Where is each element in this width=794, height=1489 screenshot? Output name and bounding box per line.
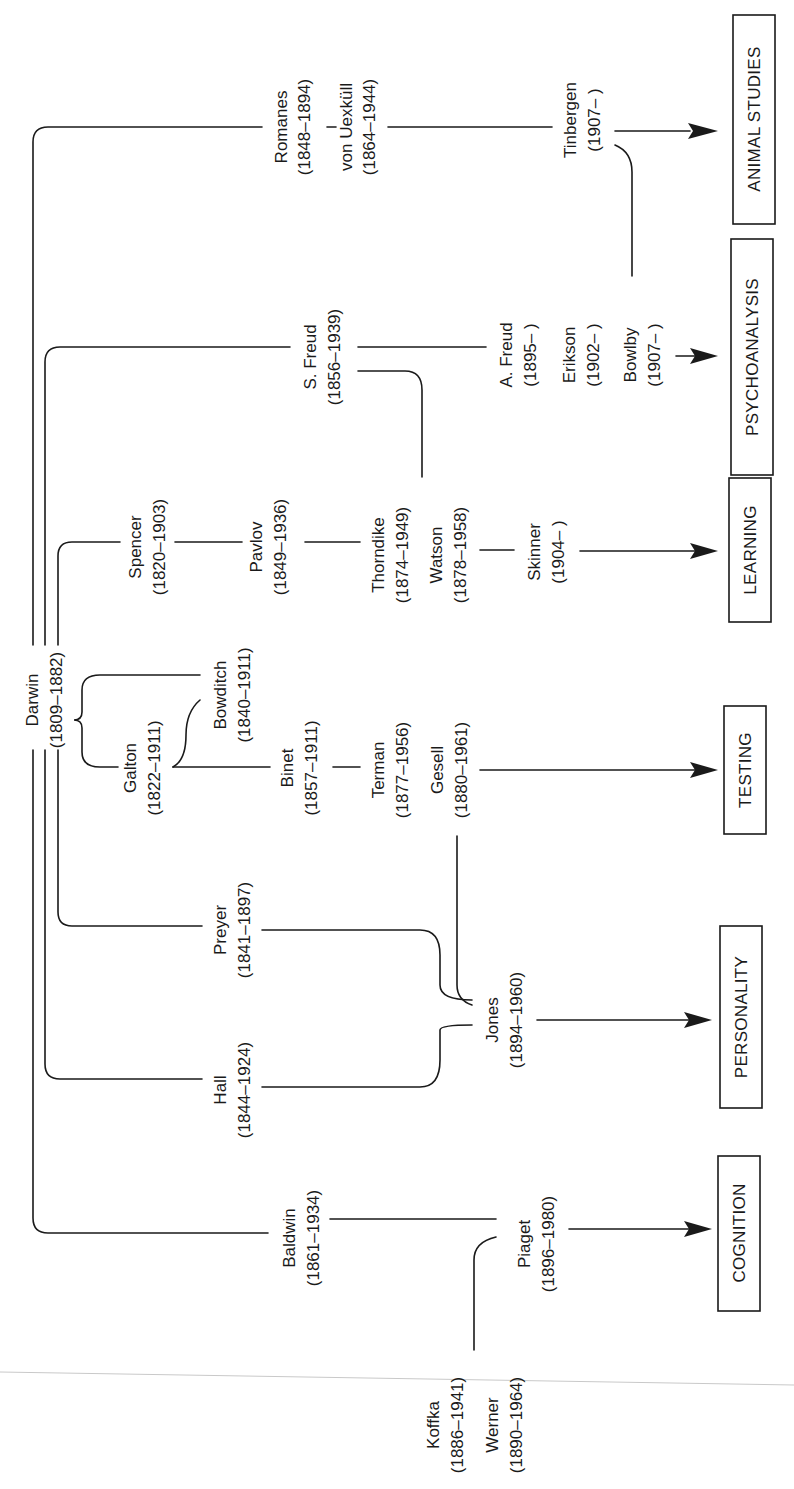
line-darwin-baldwin bbox=[33, 750, 268, 1233]
person-dates: (1849–1936) bbox=[271, 499, 290, 595]
person-name: Terman bbox=[369, 742, 388, 799]
category-cognition: COGNITION bbox=[718, 1156, 760, 1311]
person-name: Thorndike bbox=[369, 517, 388, 593]
line-sfreud-thorndike bbox=[358, 371, 422, 477]
person-dates: (1880–1961) bbox=[452, 722, 471, 818]
person-name: von Uexküll bbox=[337, 83, 356, 171]
person-name: Galton bbox=[121, 743, 140, 793]
node-s-freud: S. Freud (1856–1939) bbox=[301, 309, 344, 405]
person-name: Romanes bbox=[272, 91, 291, 164]
person-nodes: Darwin (1809–1882) Romanes (1848–1894) v… bbox=[23, 79, 664, 1473]
line-darwin-hall bbox=[45, 750, 202, 1079]
node-baldwin: Baldwin (1861–1934) bbox=[280, 1190, 323, 1286]
person-name: Pavlov bbox=[247, 521, 266, 573]
line-darwin-sfreud bbox=[45, 347, 290, 645]
category-psychoanalysis: PSYCHOANALYSIS bbox=[731, 239, 773, 475]
node-koffka: Koffka (1886–1941) bbox=[424, 1377, 467, 1473]
node-gesell: Gesell (1880–1961) bbox=[428, 722, 471, 818]
node-spencer: Spencer (1820–1903) bbox=[126, 499, 169, 595]
node-watson: Watson (1878–1958) bbox=[427, 507, 470, 603]
category-label: TESTING bbox=[736, 732, 755, 808]
person-name: Skinner bbox=[525, 523, 544, 581]
line-tinbergen-bowlby bbox=[615, 145, 632, 276]
category-boxes: ANIMAL STUDIES PSYCHOANALYSIS LEARNING T… bbox=[718, 15, 775, 1311]
line-preyer-jones bbox=[262, 930, 472, 1000]
person-name: A. Freud bbox=[497, 322, 516, 387]
person-dates: (1904– ) bbox=[549, 520, 568, 583]
person-dates: (1878–1958) bbox=[451, 507, 470, 603]
category-animal-studies: ANIMAL STUDIES bbox=[733, 15, 775, 224]
node-hall: Hall (1844–1924) bbox=[211, 1042, 254, 1138]
line-darwin-romanes bbox=[33, 127, 262, 645]
category-label: ANIMAL STUDIES bbox=[745, 46, 764, 191]
node-jones: Jones (1894–1960) bbox=[483, 972, 526, 1068]
node-binet: Binet (1857–1911) bbox=[278, 720, 321, 815]
node-preyer: Preyer (1841–1897) bbox=[211, 882, 254, 978]
person-dates: (1877–1956) bbox=[393, 722, 412, 818]
person-dates: (1857–1911) bbox=[302, 720, 321, 815]
person-dates: (1822–1911) bbox=[145, 720, 164, 815]
person-dates: (1890–1964) bbox=[507, 1377, 526, 1473]
category-testing: TESTING bbox=[724, 706, 766, 834]
person-dates: (1848–1894) bbox=[295, 79, 314, 175]
person-name: Jones bbox=[483, 997, 502, 1042]
person-dates: (1902– ) bbox=[584, 323, 603, 386]
person-name: Gesell bbox=[428, 746, 447, 794]
person-dates: (1895– ) bbox=[521, 323, 540, 386]
node-a-freud: A. Freud (1895– ) bbox=[497, 322, 540, 387]
person-dates: (1907– ) bbox=[585, 88, 604, 151]
node-bowlby: Bowlby (1907– ) bbox=[621, 323, 664, 386]
line-darwin-spencer bbox=[58, 542, 120, 645]
person-dates: (1864–1944) bbox=[360, 79, 379, 175]
category-label: PERSONALITY bbox=[732, 956, 751, 1078]
node-erikson: Erikson (1902– ) bbox=[560, 323, 603, 386]
person-name: Baldwin bbox=[280, 1208, 299, 1268]
node-tinbergen: Tinbergen (1907– ) bbox=[561, 82, 604, 158]
line-hall-jones bbox=[262, 1025, 472, 1087]
person-dates: (1820–1903) bbox=[150, 499, 169, 595]
person-dates: (1809–1882) bbox=[47, 652, 66, 748]
person-dates: (1861–1934) bbox=[304, 1190, 323, 1286]
person-dates: (1907– ) bbox=[645, 323, 664, 386]
person-name: Binet bbox=[278, 748, 297, 787]
page-fold bbox=[0, 1372, 794, 1385]
person-name: Werner bbox=[483, 1397, 502, 1453]
person-dates: (1844–1924) bbox=[235, 1042, 254, 1138]
person-name: Bowlby bbox=[621, 327, 640, 382]
arrows bbox=[480, 123, 718, 1237]
person-name: Darwin bbox=[23, 674, 42, 727]
person-name: Koffka bbox=[424, 1401, 443, 1449]
person-name: Spencer bbox=[126, 515, 145, 579]
person-name: Piaget bbox=[515, 1220, 534, 1268]
category-personality: PERSONALITY bbox=[720, 926, 762, 1108]
node-thorndike: Thorndike (1874–1949) bbox=[369, 507, 412, 603]
genealogy-diagram: ANIMAL STUDIES PSYCHOANALYSIS LEARNING T… bbox=[0, 0, 794, 1489]
node-terman: Terman (1877–1956) bbox=[369, 722, 412, 818]
arrowhead-icon bbox=[688, 123, 718, 139]
category-label: PSYCHOANALYSIS bbox=[743, 278, 762, 436]
node-piaget: Piaget (1896–1980) bbox=[515, 1196, 558, 1292]
person-name: Tinbergen bbox=[561, 82, 580, 158]
node-skinner: Skinner (1904– ) bbox=[525, 520, 568, 583]
person-name: Watson bbox=[427, 526, 446, 583]
line-galton-bowditch bbox=[173, 700, 200, 767]
person-dates: (1856–1939) bbox=[325, 309, 344, 405]
category-label: COGNITION bbox=[730, 1183, 749, 1282]
node-galton: Galton (1822–1911) bbox=[121, 720, 164, 815]
line-gesell-jones bbox=[457, 836, 472, 1005]
person-name: Hall bbox=[211, 1075, 230, 1104]
person-dates: (1874–1949) bbox=[393, 507, 412, 603]
person-dates: (1841–1897) bbox=[235, 882, 254, 978]
node-darwin: Darwin (1809–1882) bbox=[23, 652, 66, 748]
person-dates: (1840–1911) bbox=[235, 647, 254, 742]
person-name: Bowditch bbox=[211, 661, 230, 730]
person-dates: (1894–1960) bbox=[507, 972, 526, 1068]
node-werner: Werner (1890–1964) bbox=[483, 1377, 526, 1473]
category-learning: LEARNING bbox=[729, 478, 771, 622]
node-von-uexkull: von Uexküll (1864–1944) bbox=[337, 79, 379, 175]
person-dates: (1886–1941) bbox=[448, 1377, 467, 1473]
node-pavlov: Pavlov (1849–1936) bbox=[247, 499, 290, 595]
person-dates: (1896–1980) bbox=[539, 1196, 558, 1292]
category-label: LEARNING bbox=[741, 505, 760, 594]
person-name: Preyer bbox=[211, 905, 230, 955]
